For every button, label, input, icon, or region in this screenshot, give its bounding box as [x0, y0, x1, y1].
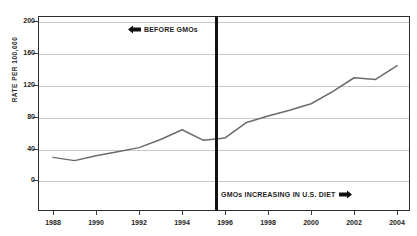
- chart-figure: 1988 - 2004 RATE PER 100,000 200 160 120…: [0, 0, 417, 236]
- ytick-label-40: 40: [1, 145, 35, 152]
- ytick-label-120: 120: [1, 81, 35, 88]
- xtick-label-1990: 1990: [78, 219, 114, 226]
- xtick-label-1988: 1988: [35, 219, 71, 226]
- gmos-increasing-label: GMOs INCREASING IN U.S. DIET: [221, 191, 336, 198]
- xtick-label-1992: 1992: [121, 219, 157, 226]
- xtick-label-2004: 2004: [379, 219, 415, 226]
- ytick-label-160: 160: [1, 49, 35, 56]
- gmos-increasing-annotation: GMOs INCREASING IN U.S. DIET: [221, 189, 352, 200]
- xtick-mark-1992: [139, 211, 140, 215]
- before-gmos-annotation: BEFORE GMOs: [128, 24, 198, 35]
- xtick-label-1996: 1996: [207, 219, 243, 226]
- xtick-mark-2002: [354, 211, 355, 215]
- xtick-mark-2000: [311, 211, 312, 215]
- data-series-line: [38, 16, 410, 211]
- xtick-label-2002: 2002: [336, 219, 372, 226]
- xtick-mark-1988: [53, 211, 54, 215]
- xtick-mark-1996: [225, 211, 226, 215]
- ytick-label-80: 80: [1, 113, 35, 120]
- xtick-label-2000: 2000: [293, 219, 329, 226]
- xtick-label-1998: 1998: [250, 219, 286, 226]
- series-polyline: [53, 66, 397, 161]
- ytick-label-0: 0: [1, 176, 35, 183]
- y-axis-title: RATE PER 100,000: [11, 10, 18, 130]
- xtick-mark-1994: [182, 211, 183, 215]
- xtick-mark-1990: [96, 211, 97, 215]
- before-gmos-label: BEFORE GMOs: [144, 26, 198, 33]
- xtick-label-1994: 1994: [164, 219, 200, 226]
- arrow-left-icon: [128, 25, 141, 34]
- ytick-label-200: 200: [1, 17, 35, 24]
- arrow-right-icon: [339, 190, 352, 199]
- xtick-mark-1998: [268, 211, 269, 215]
- xtick-mark-2004: [397, 211, 398, 215]
- chart-title: 1988 - 2004: [0, 0, 417, 1]
- gmo-introduction-divider: [215, 16, 218, 211]
